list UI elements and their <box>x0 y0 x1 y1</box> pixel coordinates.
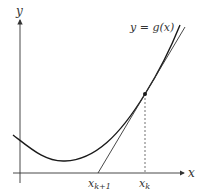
curve-g <box>13 25 180 161</box>
tangent-line <box>98 27 185 173</box>
x-next-label: xk+1 <box>88 177 111 191</box>
x-current-label: xk <box>139 177 150 191</box>
curve-label: y = g(x) <box>129 21 174 34</box>
x-axis-label: x <box>188 166 195 180</box>
y-axis-label: y <box>15 4 23 18</box>
tangent-point <box>143 92 147 96</box>
newton-method-diagram: x y y = g(x) xk+1 xk <box>0 0 203 195</box>
